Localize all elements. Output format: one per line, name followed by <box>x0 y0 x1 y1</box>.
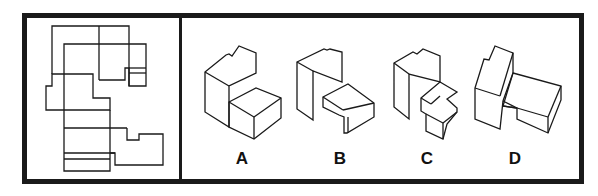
net-diagram <box>46 26 163 171</box>
option-b-figure[interactable] <box>297 49 374 133</box>
option-d-label[interactable]: D <box>500 149 530 169</box>
option-a-figure[interactable] <box>205 46 281 139</box>
option-d-figure[interactable] <box>475 46 561 133</box>
option-c-label[interactable]: C <box>412 149 442 169</box>
option-c-figure[interactable] <box>394 49 457 139</box>
option-a-label[interactable]: A <box>227 149 257 169</box>
option-b-label[interactable]: B <box>325 149 355 169</box>
